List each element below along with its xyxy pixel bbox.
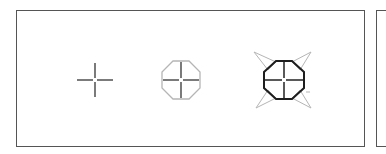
icon-overlay: [0, 0, 386, 154]
diagram-stage: [0, 0, 386, 154]
crosshair-icon: [77, 63, 113, 97]
octagon-crosshair-light-icon: [162, 61, 200, 99]
octagon-crosshair-arrows-icon: [254, 52, 311, 108]
